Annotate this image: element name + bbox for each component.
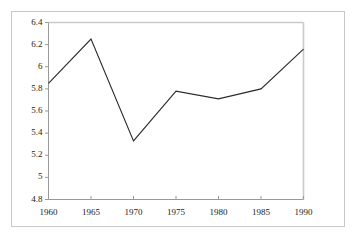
line-chart-plot [0,0,357,241]
chart-figure: 4.855.25.45.65.866.26.419601965197019751… [0,0,357,241]
plot-frame [49,23,304,200]
series-line-0 [49,39,304,141]
axis-ticks [45,23,304,200]
data-series [49,39,304,141]
